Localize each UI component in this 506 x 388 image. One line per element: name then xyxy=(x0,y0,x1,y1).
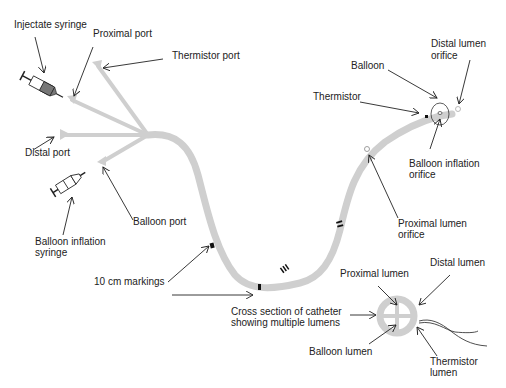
cross-section xyxy=(380,299,487,346)
thermistor-wire-1 xyxy=(419,320,487,346)
label-proximal-lumen-orifice-2: orifice xyxy=(398,229,425,240)
catheter-body xyxy=(148,114,452,288)
proximal-lumen-orifice xyxy=(365,147,370,152)
port-branches xyxy=(60,60,148,166)
label-cross-section-2: showing multiple lumens xyxy=(231,317,340,328)
ten-cm-markings xyxy=(210,220,344,290)
arrow-thermistor-lumen xyxy=(417,327,437,356)
label-balloon-inflation-orifice-1: Balloon inflation xyxy=(409,158,480,169)
arrow-thermistor xyxy=(360,102,419,113)
label-injectate-syringe: Injectate syringe xyxy=(14,19,87,30)
label-thermistor: Thermistor xyxy=(313,91,361,102)
injectate-syringe xyxy=(20,71,65,101)
label-thermistor-lumen-2: lumen xyxy=(430,367,457,378)
arrow-thermistor-port xyxy=(103,59,163,68)
arrow-proximal-lumen-orifice xyxy=(369,155,398,218)
label-distal-port: Distal port xyxy=(25,147,70,158)
arrow-balloon-inflation-syringe xyxy=(63,197,72,235)
arrow-distal-lumen xyxy=(419,275,450,305)
distal-lumen-orifice xyxy=(456,107,461,112)
cross-section-horizontal-septum xyxy=(381,314,413,318)
label-distal-lumen-orifice-1: Distal lumen xyxy=(431,38,486,49)
label-proximal-lumen: Proximal lumen xyxy=(340,268,409,279)
balloon-port-branch xyxy=(102,135,148,162)
label-thermistor-lumen-1: Thermistor xyxy=(430,356,478,367)
label-10cm-markings: 10 cm markings xyxy=(94,276,165,287)
label-balloon-inflation-orifice-2: orifice xyxy=(409,169,436,180)
arrow-balloon xyxy=(388,70,437,98)
balloon-inflation-syringe xyxy=(50,168,88,197)
label-proximal-lumen-orifice-1: Proximal lumen xyxy=(398,218,467,229)
balloon-port-connector xyxy=(97,156,106,166)
arrow-distal-lumen-orifice xyxy=(459,60,470,104)
label-proximal-port: Proximal port xyxy=(93,28,152,39)
label-distal-lumen-orifice-2: orifice xyxy=(431,50,458,61)
marking-2 xyxy=(258,284,261,290)
arrow-proximal-port xyxy=(74,47,93,96)
label-distal-lumen: Distal lumen xyxy=(430,257,485,268)
label-thermistor-port: Thermistor port xyxy=(172,50,240,61)
label-balloon-port: Balloon port xyxy=(133,216,187,227)
thermistor-marker xyxy=(425,115,428,118)
label-cross-section-1: Cross section of catheter xyxy=(231,306,342,317)
balloon-inflation-orifice xyxy=(438,112,442,115)
marking-1 xyxy=(210,243,215,249)
label-balloon-inflation-syringe-1: Balloon inflation xyxy=(35,236,106,247)
thermistor-wire-2 xyxy=(419,322,478,332)
label-balloon-lumen: Balloon lumen xyxy=(309,346,372,357)
label-balloon-inflation-syringe-2: syringe xyxy=(35,247,68,258)
catheter-diagram: Injectate syringe Proximal port Thermist… xyxy=(0,0,506,388)
marking-3 xyxy=(280,264,290,273)
arrow-balloon-port xyxy=(103,167,133,220)
arrow-injectate-syringe xyxy=(35,37,44,73)
distal-port-connector xyxy=(60,129,70,140)
arrow-10cm-marking-upper xyxy=(168,246,209,282)
label-balloon: Balloon xyxy=(351,60,384,71)
